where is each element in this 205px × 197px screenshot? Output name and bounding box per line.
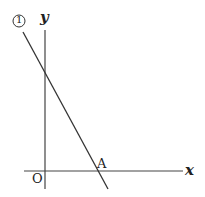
line-1 <box>23 32 108 189</box>
origin-label: O <box>32 172 43 185</box>
line-1-number: 1 <box>16 15 22 25</box>
x-axis-label: x <box>185 163 194 178</box>
coordinate-diagram: ① 1 y x O A <box>0 0 205 197</box>
point-a-label: A <box>97 157 106 170</box>
y-axis-label: y <box>40 10 49 25</box>
